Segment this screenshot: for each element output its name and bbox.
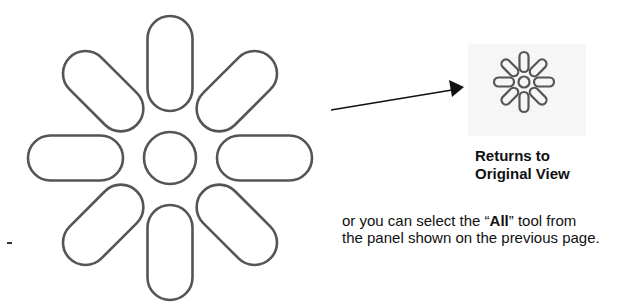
all-tool-name: All [490, 212, 509, 229]
paragraph-line-2: the panel shown on the previous page. [342, 229, 600, 246]
caption-line-2: Original View [475, 165, 570, 183]
reset-view-flower-icon [468, 44, 586, 136]
text-run: or you can select the “ [342, 212, 490, 229]
icon-caption: Returns to Original View [475, 147, 570, 183]
text-run: ” tool from [509, 212, 577, 229]
margin-mark [7, 242, 12, 244]
arrow-right-icon [320, 70, 480, 130]
instruction-paragraph: or you can select the “All” tool from th… [342, 212, 600, 246]
reset-view-tool-button[interactable] [468, 44, 586, 136]
reset-view-flower-icon [0, 0, 340, 307]
paragraph-line-1: or you can select the “All” tool from [342, 212, 600, 229]
caption-line-1: Returns to [475, 147, 570, 165]
center-circle [144, 132, 196, 184]
